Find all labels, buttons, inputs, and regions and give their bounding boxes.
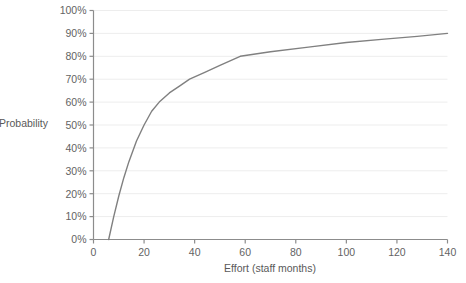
x-tick-label: 60 <box>239 246 251 258</box>
y-tick-label: 90% <box>65 27 86 39</box>
y-tick-label: 80% <box>65 50 86 62</box>
x-tick-label: 100 <box>338 246 356 258</box>
y-axis: 0%10%20%30%40%50%60%70%80%90%100% <box>60 4 94 245</box>
y-tick-label: 30% <box>65 165 86 177</box>
data-series <box>109 33 448 239</box>
x-tick-label: 0 <box>91 246 97 258</box>
y-axis-title: Probability <box>0 117 49 129</box>
y-tick-label: 0% <box>71 233 86 245</box>
y-tick-label: 20% <box>65 188 86 200</box>
x-axis: 020406080100120140 <box>91 240 457 258</box>
series-line <box>109 33 448 239</box>
chart-svg: 0%10%20%30%40%50%60%70%80%90%100% 020406… <box>0 0 466 283</box>
x-tick-label: 140 <box>439 246 457 258</box>
y-tick-label: 10% <box>65 210 86 222</box>
probability-effort-chart: 0%10%20%30%40%50%60%70%80%90%100% 020406… <box>0 0 466 283</box>
y-tick-label: 100% <box>60 4 87 16</box>
x-tick-label: 20 <box>138 246 150 258</box>
y-tick-label: 60% <box>65 96 86 108</box>
x-tick-label: 40 <box>189 246 201 258</box>
y-tick-label: 70% <box>65 73 86 85</box>
x-tick-label: 80 <box>290 246 302 258</box>
gridlines <box>94 11 448 217</box>
x-tick-label: 120 <box>388 246 406 258</box>
x-axis-title: Effort (staff months) <box>224 262 316 274</box>
y-tick-label: 40% <box>65 142 86 154</box>
y-tick-label: 50% <box>65 119 86 131</box>
